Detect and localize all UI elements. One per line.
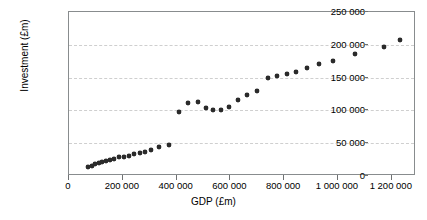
data-point <box>211 108 215 112</box>
data-point <box>196 100 200 104</box>
plot-area <box>68 11 415 175</box>
data-point <box>294 70 298 74</box>
x-tick-label: 600 000 <box>212 180 246 191</box>
x-tick-mark <box>176 175 177 180</box>
data-point <box>149 148 153 152</box>
y-tick-label: 250 000 <box>331 6 365 17</box>
x-tick-mark <box>68 175 69 180</box>
data-point <box>353 52 357 56</box>
data-point <box>112 157 116 161</box>
x-tick-label: 1 200 000 <box>370 180 412 191</box>
data-point <box>143 150 147 154</box>
y-tick-mark <box>364 142 368 143</box>
y-tick-label: 100 000 <box>331 104 365 115</box>
data-point <box>132 152 136 156</box>
x-tick-label: 200 000 <box>105 180 139 191</box>
x-tick-mark <box>283 175 284 180</box>
data-point <box>127 154 131 158</box>
data-point <box>167 143 171 147</box>
data-point <box>157 145 161 149</box>
x-axis-title: GDP (£m) <box>0 196 427 207</box>
x-tick-mark <box>229 175 230 180</box>
data-point <box>227 105 231 109</box>
data-point <box>245 93 249 97</box>
data-point <box>331 59 335 63</box>
data-point <box>266 76 270 80</box>
x-tick-label: 800 000 <box>266 180 300 191</box>
x-tick-label: 400 000 <box>158 180 192 191</box>
y-tick-label: 200 000 <box>331 38 365 49</box>
y-tick-mark <box>364 44 368 45</box>
y-tick-mark <box>364 11 368 12</box>
x-tick-label: 0 <box>65 180 70 191</box>
y-tick-mark <box>364 109 368 110</box>
data-point <box>305 66 309 70</box>
y-tick-label: 150 000 <box>331 71 365 82</box>
x-tick-mark <box>122 175 123 180</box>
y-tick-mark <box>364 77 368 78</box>
data-point <box>138 151 142 155</box>
data-point <box>177 110 181 114</box>
data-point <box>285 72 289 76</box>
data-point <box>398 38 402 42</box>
y-tick-label: 50 000 <box>336 137 365 148</box>
data-point <box>219 108 223 112</box>
x-tick-label: 1 000 000 <box>316 180 358 191</box>
y-tick-mark <box>364 175 368 176</box>
x-tick-mark <box>337 175 338 180</box>
data-point <box>317 62 321 66</box>
scatter-chart-figure: Investment (£m) GDP (£m) 050 000100 0001… <box>0 0 427 220</box>
data-point <box>255 89 259 93</box>
data-point <box>236 98 240 102</box>
y-axis <box>0 0 68 220</box>
data-point <box>204 106 208 110</box>
data-point <box>117 155 121 159</box>
data-point <box>382 45 386 49</box>
data-point <box>122 155 126 159</box>
x-tick-mark <box>391 175 392 180</box>
data-point <box>186 101 190 105</box>
